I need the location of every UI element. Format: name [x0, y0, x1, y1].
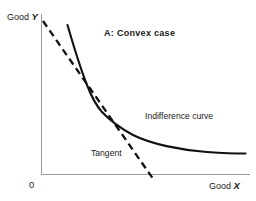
y-axis-label-variable: Y — [32, 11, 38, 22]
origin-label: 0 — [29, 180, 34, 190]
x-axis-label: Good X — [209, 181, 240, 191]
y-axis-label-prefix: Good — [7, 12, 32, 22]
tangent-line-label: Tangent — [91, 149, 122, 158]
y-axis-label: Good Y — [7, 12, 38, 22]
indifference-curve — [68, 25, 246, 154]
indifference-curve-label: Indifference curve — [145, 112, 213, 121]
x-axis-label-variable: X — [234, 180, 240, 191]
x-axis-label-prefix: Good — [209, 181, 234, 191]
convex-indifference-curve-figure: Good Y Good X 0 A: Convex case Indiffere… — [0, 0, 256, 201]
figure-title: A: Convex case — [104, 29, 175, 38]
